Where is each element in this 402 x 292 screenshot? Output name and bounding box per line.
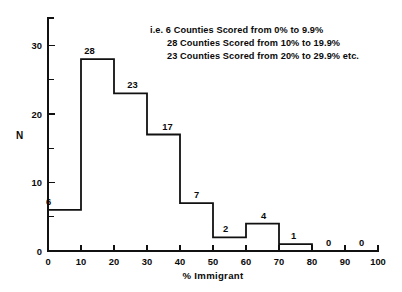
annotation-line-3: 23 Counties Scored from 20% to 29.9% etc… xyxy=(150,50,394,63)
y-tick-label: 10 xyxy=(20,177,42,188)
bar-value-label: 28 xyxy=(84,45,94,56)
bar-value-label: 4 xyxy=(261,210,266,221)
bar-value-label: 2 xyxy=(223,223,228,234)
x-axis-title-text: % Immigrant xyxy=(183,270,244,281)
bar-value-label: 6 xyxy=(46,196,51,207)
y-tick-label: 30 xyxy=(20,40,42,51)
x-axis-title: % Immigrant xyxy=(0,270,402,281)
bar-value-label: 1 xyxy=(291,230,296,241)
annotation-line-1: i.e. 6 Counties Scored from 0% to 9.9% xyxy=(150,24,394,37)
bar-value-label: 0 xyxy=(326,237,331,248)
annotation-line-2: 28 Counties Scored from 10% to 19.9% xyxy=(150,37,394,50)
y-tick-label: 20 xyxy=(20,108,42,119)
histogram-figure: i.e. 6 Counties Scored from 0% to 9.9% 2… xyxy=(0,0,402,292)
x-tick-label: 20 xyxy=(109,256,119,267)
bar-value-label: 23 xyxy=(127,79,137,90)
x-tick-label: 90 xyxy=(340,256,350,267)
bar-value-label: 7 xyxy=(194,189,199,200)
annotation-text-block: i.e. 6 Counties Scored from 0% to 9.9% 2… xyxy=(150,24,394,63)
bar-value-label: 17 xyxy=(162,121,172,132)
x-tick-label: 60 xyxy=(241,256,251,267)
x-tick-label: 50 xyxy=(208,256,218,267)
y-axis-title: N xyxy=(16,130,23,141)
histogram-step-outline xyxy=(48,59,378,251)
x-tick-label: 10 xyxy=(76,256,86,267)
x-tick-label: 30 xyxy=(142,256,152,267)
x-tick-label: 100 xyxy=(370,256,386,267)
y-tick-label: 0 xyxy=(20,246,42,257)
bar-value-label: 0 xyxy=(359,237,364,248)
x-tick-label: 80 xyxy=(307,256,317,267)
x-tick-label: 40 xyxy=(175,256,185,267)
x-tick-label: 0 xyxy=(45,256,50,267)
x-tick-label: 70 xyxy=(274,256,284,267)
